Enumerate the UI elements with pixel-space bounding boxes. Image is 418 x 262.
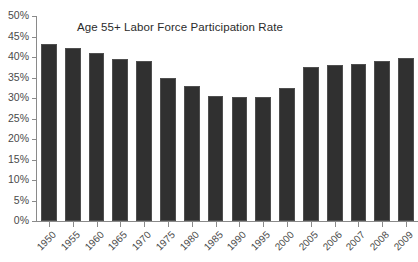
- x-axis-tick-label: 2009: [392, 229, 416, 253]
- bar[interactable]: [41, 44, 57, 221]
- x-axis-tick-label: 1970: [130, 229, 154, 253]
- bar-slot: [184, 16, 200, 221]
- bar-slot: [327, 16, 343, 221]
- x-axis-tick-label: 2007: [344, 229, 368, 253]
- y-axis-tick-label: 20%: [8, 132, 29, 144]
- y-axis-tick-label: 50%: [8, 9, 29, 21]
- bar-slot: [351, 16, 367, 221]
- x-axis-tick-label: 1995: [249, 229, 273, 253]
- y-axis-tick-label: 5%: [14, 194, 29, 206]
- x-axis-tick-mark: [382, 222, 383, 227]
- bar-slot: [398, 16, 414, 221]
- x-axis-tick-mark: [216, 222, 217, 227]
- x-axis-tick-label: 1985: [201, 229, 225, 253]
- x-axis-tick-mark: [335, 222, 336, 227]
- bar[interactable]: [279, 88, 295, 221]
- bar-slot: [374, 16, 390, 221]
- bar-slot: [89, 16, 105, 221]
- x-axis-tick-label: 1965: [106, 229, 130, 253]
- x-axis-tick-mark: [120, 222, 121, 227]
- x-axis-tick-mark: [49, 222, 50, 227]
- bar[interactable]: [65, 48, 81, 221]
- x-axis-tick-mark: [311, 222, 312, 227]
- y-axis-tick-label: 25%: [8, 112, 29, 124]
- bar[interactable]: [255, 97, 271, 221]
- x-axis-tick-label: 1955: [58, 229, 82, 253]
- x-axis-tick-label: 1975: [153, 229, 177, 253]
- x-axis-tick-mark: [406, 222, 407, 227]
- x-axis-tick-label: 2006: [320, 229, 344, 253]
- bar[interactable]: [374, 61, 390, 221]
- bar-slot: [41, 16, 57, 221]
- bar-slot: [136, 16, 152, 221]
- bar[interactable]: [232, 97, 248, 221]
- y-axis-tick-mark: [32, 221, 37, 222]
- x-axis-tick-mark: [239, 222, 240, 227]
- bar[interactable]: [136, 61, 152, 221]
- bar-slot: [208, 16, 224, 221]
- bar[interactable]: [303, 67, 319, 221]
- bar[interactable]: [89, 53, 105, 221]
- y-axis-tick-label: 0%: [14, 214, 29, 226]
- bar[interactable]: [184, 86, 200, 221]
- x-axis-tick-mark: [287, 222, 288, 227]
- x-axis-tick-mark: [97, 222, 98, 227]
- bar[interactable]: [351, 64, 367, 221]
- bar[interactable]: [398, 58, 414, 221]
- x-axis-tick-label: 1980: [177, 229, 201, 253]
- x-axis-line: [36, 221, 418, 222]
- bar-slot: [65, 16, 81, 221]
- bar[interactable]: [208, 96, 224, 221]
- y-axis-tick-label: 15%: [8, 153, 29, 165]
- bar-slot: [112, 16, 128, 221]
- x-axis-tick-label: 1960: [82, 229, 106, 253]
- x-axis-tick-label: 2005: [296, 229, 320, 253]
- bar[interactable]: [160, 78, 176, 221]
- bar-slot: [232, 16, 248, 221]
- x-axis-tick-mark: [168, 222, 169, 227]
- y-axis-tick-label: 10%: [8, 173, 29, 185]
- bar-slot: [160, 16, 176, 221]
- x-axis-tick-label: 1950: [34, 229, 58, 253]
- x-axis-tick-label: 1990: [225, 229, 249, 253]
- x-axis-tick-mark: [73, 222, 74, 227]
- y-axis-tick-label: 30%: [8, 91, 29, 103]
- x-axis-tick-label: 2008: [368, 229, 392, 253]
- y-axis-tick-label: 40%: [8, 50, 29, 62]
- x-axis-tick-label: 2000: [273, 229, 297, 253]
- x-axis-tick-mark: [192, 222, 193, 227]
- x-axis-tick-mark: [358, 222, 359, 227]
- bar-slot: [303, 16, 319, 221]
- bar[interactable]: [327, 65, 343, 221]
- x-axis-tick-mark: [144, 222, 145, 227]
- x-axis-tick-mark: [263, 222, 264, 227]
- y-axis-tick-label: 35%: [8, 71, 29, 83]
- chart-container: Age 55+ Labor Force Participation Rate 0…: [0, 0, 418, 262]
- bar[interactable]: [112, 59, 128, 221]
- plot-area: [37, 16, 418, 221]
- bar-slot: [279, 16, 295, 221]
- bar-slot: [255, 16, 271, 221]
- y-axis-tick-label: 45%: [8, 30, 29, 42]
